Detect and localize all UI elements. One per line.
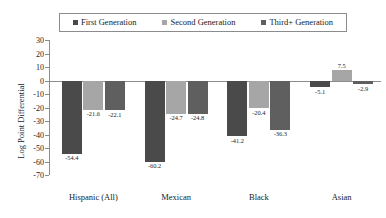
bar-value-label: -41.2 [231, 137, 244, 144]
x-axis-category-label: Hispanic (All) [69, 192, 118, 202]
x-axis-category-label: Black [249, 192, 269, 202]
bar-value-label: -5.1 [315, 88, 325, 95]
bar[interactable] [62, 81, 82, 154]
x-axis-category-label: Mexican [161, 192, 191, 202]
legend-item-third-plus-generation: Third+ Generation [261, 18, 333, 27]
y-axis-tick-label: -20 [33, 103, 44, 112]
bar-value-label: -54.4 [65, 154, 78, 161]
bar[interactable] [105, 81, 125, 111]
bar-value-label: 7.5 [338, 62, 346, 69]
y-axis-tick-label: -10 [33, 90, 44, 99]
y-axis-tick-label: 10 [36, 63, 44, 72]
y-axis-tick-mark [45, 94, 49, 95]
bar-group: -41.2-20.4-36.3 [227, 40, 290, 175]
y-axis-tick-label: -50 [33, 144, 44, 153]
y-axis-tick-mark [45, 81, 49, 82]
bar[interactable] [310, 81, 330, 88]
y-axis-tick-mark [45, 162, 49, 163]
x-axis-category-label: Asian [332, 192, 352, 202]
bar[interactable] [332, 70, 352, 80]
y-axis-tick-label: -30 [33, 117, 44, 126]
bar-value-label: -21.6 [87, 110, 100, 117]
bar[interactable] [166, 81, 186, 114]
bar[interactable] [83, 81, 103, 110]
y-axis-tick-label: 30 [36, 36, 44, 45]
y-axis-tick-mark [45, 54, 49, 55]
y-axis-tick-label: -60 [33, 157, 44, 166]
y-axis-tick-label: 20 [36, 49, 44, 58]
y-axis-tick-mark [45, 175, 49, 176]
legend-swatch-second-generation [162, 20, 167, 25]
legend-swatch-third-plus-generation [261, 20, 266, 25]
bar-value-label: -24.7 [169, 114, 182, 121]
bar-value-label: -22.1 [108, 111, 121, 118]
bar-group: -54.4-21.6-22.1 [62, 40, 125, 175]
legend-label-third-plus-generation: Third+ Generation [269, 18, 333, 27]
legend-swatch-first-generation [73, 20, 78, 25]
bar-group: -60.2-24.7-24.8 [145, 40, 208, 175]
bar[interactable] [270, 81, 290, 130]
bar[interactable] [227, 81, 247, 137]
y-axis-tick-label: 0 [40, 76, 44, 85]
y-axis-tick-mark [45, 108, 49, 109]
legend-label-second-generation: Second Generation [170, 18, 235, 27]
bar-value-label: -24.8 [191, 114, 204, 121]
bar[interactable] [188, 81, 208, 114]
plot-area: 3020100-10-20-30-40-50-60-70 -54.4-21.6-… [50, 40, 381, 175]
legend-item-first-generation: First Generation [73, 18, 136, 27]
y-axis-tick-mark [45, 121, 49, 122]
bar-value-label: -36.3 [274, 130, 287, 137]
bar-group: -5.17.5-2.9 [310, 40, 373, 175]
bar-value-label: -2.9 [358, 85, 368, 92]
bar-chart: First Generation Second Generation Third… [0, 0, 386, 218]
chart-legend: First Generation Second Generation Third… [59, 13, 347, 32]
y-axis-tick-mark [45, 135, 49, 136]
y-axis-tick-mark [45, 40, 49, 41]
bar[interactable] [353, 81, 373, 85]
y-axis-line [49, 40, 50, 175]
bar-value-label: -60.2 [148, 162, 161, 169]
bar[interactable] [145, 81, 165, 162]
legend-item-second-generation: Second Generation [162, 18, 235, 27]
y-axis-tick-label: -70 [33, 171, 44, 180]
y-axis-tick-mark [45, 67, 49, 68]
y-axis-title: Log Point Differential [16, 61, 26, 181]
bar[interactable] [249, 81, 269, 109]
bar-value-label: -20.4 [252, 109, 265, 116]
y-axis-tick-label: -40 [33, 130, 44, 139]
y-axis-tick-mark [45, 148, 49, 149]
legend-label-first-generation: First Generation [81, 18, 136, 27]
